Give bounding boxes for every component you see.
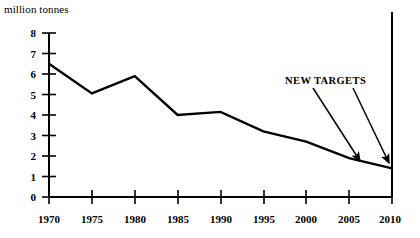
arrow-to-2010 xyxy=(353,88,389,163)
x-tick-label-1975: 1975 xyxy=(81,213,104,225)
new-targets-arrows xyxy=(313,88,389,163)
y-tick-label-4: 4 xyxy=(31,109,37,121)
new-targets-annotation-label: NEW TARGETS xyxy=(285,75,366,86)
y-tick-label-7: 7 xyxy=(31,48,37,60)
y-axis-tick-labels: 8 7 6 5 4 3 2 1 0 xyxy=(31,27,37,203)
y-tick-label-5: 5 xyxy=(31,89,37,101)
y-tick-label-0: 0 xyxy=(31,191,37,203)
x-tick-label-2000: 2000 xyxy=(295,213,318,225)
x-tick-label-2005: 2005 xyxy=(338,213,361,225)
x-tick-label-1970: 1970 xyxy=(38,213,61,225)
x-tick-label-2010: 2010 xyxy=(379,213,402,225)
x-tick-label-1990: 1990 xyxy=(210,213,233,225)
x-tick-label-1985: 1985 xyxy=(167,213,190,225)
y-tick-label-6: 6 xyxy=(31,68,37,80)
y-tick-label-8: 8 xyxy=(31,27,37,39)
line-chart-plot: 8 7 6 5 4 3 2 1 0 1970 1975 1980 xyxy=(0,0,420,238)
arrow-to-2005 xyxy=(313,88,360,161)
chart-container: million tonnes 8 7 6 xyxy=(0,0,420,238)
y-tick-label-3: 3 xyxy=(31,130,37,142)
x-tick-label-1980: 1980 xyxy=(124,213,147,225)
x-axis-tick-labels: 1970 1975 1980 1985 1990 1995 2000 2005 … xyxy=(38,213,402,225)
y-tick-label-1: 1 xyxy=(31,171,37,183)
x-tick-label-1995: 1995 xyxy=(253,213,276,225)
y-tick-label-2: 2 xyxy=(31,150,37,162)
